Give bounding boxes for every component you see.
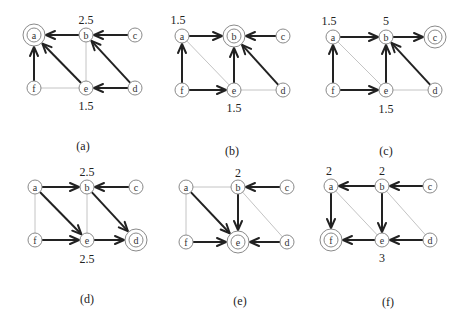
arrow-e-to-a — [42, 44, 81, 83]
value-label-e: 1.5 — [379, 102, 394, 116]
value-label-a: 2 — [326, 164, 332, 178]
node-d: d — [280, 235, 294, 249]
node-label: b — [232, 31, 237, 42]
node-a: a — [175, 29, 189, 43]
value-label-b: 5 — [383, 14, 389, 28]
node-e: e — [79, 81, 93, 95]
node-c: c — [276, 29, 290, 43]
arrow-d-to-b — [242, 45, 278, 85]
node-label: b — [85, 182, 90, 193]
node-f: f — [326, 83, 340, 97]
node-f: f — [175, 83, 189, 97]
arrow-e-to-b — [230, 48, 238, 83]
node-d: d — [276, 83, 290, 97]
arrow-f-to-a — [329, 45, 337, 83]
node-a: a — [28, 180, 42, 194]
arrow-c-to-b — [246, 183, 280, 191]
arrow-b-to-e — [378, 193, 386, 232]
node-d: d — [428, 83, 442, 97]
panel-a: abcfed2.51.5(a) — [23, 13, 142, 153]
arrow-f-to-a — [178, 44, 186, 83]
node-label: c — [281, 31, 286, 42]
node-label: b — [236, 182, 241, 193]
arrow-a-to-b — [189, 32, 222, 40]
node-e: e — [379, 83, 393, 97]
node-label: e — [85, 235, 90, 246]
edge-a-e — [333, 37, 386, 90]
node-b: b — [80, 180, 94, 194]
node-label: e — [84, 83, 89, 94]
node-d: d — [125, 229, 147, 251]
node-e: e — [227, 231, 249, 253]
value-label-e: 2.5 — [80, 252, 95, 266]
arrow-f-to-e — [193, 238, 226, 246]
arrow-e-to-b — [382, 45, 390, 83]
arrow-d-to-e — [390, 236, 423, 244]
panel-caption: (e) — [233, 294, 246, 308]
node-label: d — [133, 83, 138, 94]
value-label-e: 1.5 — [79, 99, 94, 113]
node-f: f — [28, 233, 42, 247]
edge-b-d — [382, 186, 430, 240]
node-c: c — [128, 28, 142, 42]
node-e: e — [80, 233, 94, 247]
arrow-c-to-b — [95, 183, 129, 191]
value-label-a: 1.5 — [322, 14, 337, 28]
panel-caption: (d) — [80, 292, 94, 306]
arrow-a-to-b — [42, 183, 79, 191]
node-label: a — [184, 182, 189, 193]
arrow-f-to-e — [42, 236, 79, 244]
node-label: a — [331, 32, 336, 43]
value-label-b: 2 — [379, 164, 385, 178]
node-label: c — [433, 32, 438, 43]
node-f: f — [27, 81, 41, 95]
panel-caption: (f) — [382, 295, 394, 309]
node-label: e — [236, 237, 241, 248]
arrow-e-to-d — [94, 236, 124, 244]
node-label: b — [380, 181, 385, 192]
arrow-b-to-c — [393, 33, 423, 41]
node-b: b — [231, 180, 245, 194]
arrow-f-to-e — [189, 86, 226, 94]
arrow-c-to-b — [390, 182, 423, 190]
node-f: f — [179, 235, 193, 249]
panels-group: abcfed2.51.5(a)abcfed1.51.5(b)abcfed1.55… — [23, 13, 446, 309]
value-label-e: 1.5 — [227, 101, 242, 115]
node-label: d — [428, 235, 433, 246]
node-a: a — [23, 24, 45, 46]
panel-b: abcfed1.51.5(b) — [171, 13, 291, 158]
value-label-b: 2.5 — [79, 13, 94, 27]
arrow-b-to-a — [46, 31, 79, 39]
arrow-c-to-b — [246, 32, 276, 40]
value-label-b: 2.5 — [80, 165, 95, 179]
graph-figure: abcfed2.51.5(a)abcfed1.51.5(b)abcfed1.55… — [0, 0, 467, 329]
node-b: b — [379, 30, 393, 44]
panel-e: abcfed2(e) — [179, 166, 294, 308]
panel-caption: (b) — [225, 144, 239, 158]
node-a: a — [324, 179, 338, 193]
node-b: b — [375, 179, 389, 193]
arrow-a-to-e — [191, 192, 230, 233]
panel-f: abcfed223(f) — [320, 164, 437, 309]
arrow-b-to-d — [92, 192, 128, 231]
node-b: b — [223, 25, 245, 47]
panel-d: abcfed2.52.5(d) — [28, 165, 147, 306]
node-d: d — [423, 233, 437, 247]
node-label: d — [281, 85, 286, 96]
value-label-e: 3 — [379, 251, 385, 265]
arrow-d-to-e — [250, 238, 280, 246]
node-label: e — [384, 85, 389, 96]
arrow-b-to-e — [234, 194, 242, 230]
node-a: a — [326, 30, 340, 44]
arrow-f-to-a — [30, 47, 38, 81]
node-label: e — [380, 235, 385, 246]
value-label-b: 2 — [235, 166, 241, 180]
panel-caption: (a) — [76, 139, 89, 153]
node-label: d — [134, 235, 139, 246]
node-label: c — [133, 30, 138, 41]
arrow-c-to-b — [94, 31, 128, 39]
node-label: c — [428, 181, 433, 192]
node-label: b — [384, 32, 389, 43]
arrow-a-to-b — [340, 33, 378, 41]
node-label: a — [329, 181, 334, 192]
